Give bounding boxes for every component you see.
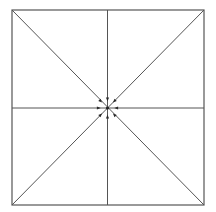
diagram-canvas <box>0 0 216 212</box>
center-point <box>106 106 109 109</box>
